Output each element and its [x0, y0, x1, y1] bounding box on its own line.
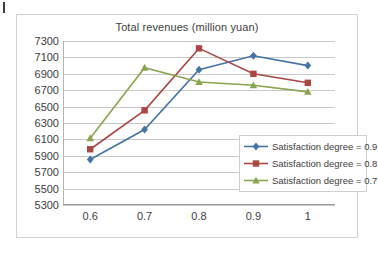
- y-axis-tick-label: 5900: [35, 150, 59, 162]
- legend-marker-triangle-icon: [243, 175, 269, 186]
- legend-marker-diamond-icon: [243, 141, 269, 152]
- y-axis-tick-label: 6700: [35, 84, 59, 96]
- chart-container: Total revenues (million yuan) 5300550057…: [16, 14, 358, 238]
- gridline: [63, 205, 335, 206]
- page-corner-mark: [3, 2, 5, 13]
- y-axis-tick-label: 6100: [35, 133, 59, 145]
- x-axis-tick-label: 1: [305, 210, 311, 222]
- legend-item[interactable]: Satisfaction degree = 0.7: [240, 172, 366, 189]
- chart-title: Total revenues (million yuan): [17, 21, 357, 33]
- y-axis-tick-label: 6500: [35, 101, 59, 113]
- legend-label: Satisfaction degree = 0.7: [272, 175, 377, 186]
- x-axis-tick-label: 0.8: [191, 210, 206, 222]
- legend-item[interactable]: Satisfaction degree = 0.9: [240, 138, 366, 155]
- legend-label: Satisfaction degree = 0.8: [272, 158, 377, 169]
- y-axis-tick-label: 6900: [35, 68, 59, 80]
- y-axis-tick-label: 6300: [35, 117, 59, 129]
- y-axis-tick-label: 5300: [35, 199, 59, 211]
- y-axis-tick-label: 7100: [35, 51, 59, 63]
- series-line: [86, 64, 311, 141]
- x-axis-tick-label: 0.9: [246, 210, 261, 222]
- legend-label: Satisfaction degree = 0.9: [272, 141, 377, 152]
- y-axis-tick-label: 7300: [35, 35, 59, 47]
- chart-legend: Satisfaction degree = 0.9Satisfaction de…: [239, 135, 367, 192]
- y-axis-tick-label: 5500: [35, 183, 59, 195]
- legend-item[interactable]: Satisfaction degree = 0.8: [240, 155, 366, 172]
- y-axis-tick-label: 5700: [35, 166, 59, 178]
- x-axis-tick-label: 0.6: [83, 210, 98, 222]
- x-axis-tick-label: 0.7: [137, 210, 152, 222]
- legend-marker-square-icon: [243, 158, 269, 169]
